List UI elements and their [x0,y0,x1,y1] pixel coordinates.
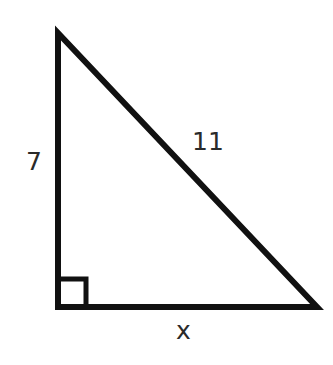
base-leg-label: x [176,318,191,343]
right-triangle-figure [0,0,333,365]
triangle-outline [58,33,317,307]
right-angle-marker [60,279,86,305]
triangle-diagram: 7 11 x [0,0,333,365]
vertical-leg-label: 7 [26,149,42,174]
hypotenuse-label: 11 [192,129,224,154]
